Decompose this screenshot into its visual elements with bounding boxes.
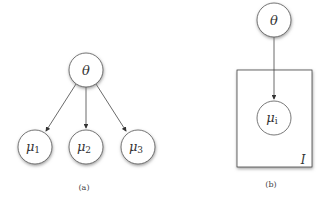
- node-mu3: μ3: [121, 130, 155, 164]
- panel-b: θ μi I (b): [237, 3, 312, 189]
- edge-theta-mu3: [96, 84, 126, 131]
- panel-a: θ μ1 μ2 μ3 (a): [18, 53, 155, 192]
- node-mui: μi: [257, 101, 291, 135]
- edge-theta-mu1: [46, 84, 76, 131]
- node-mu1: μ1: [18, 130, 52, 164]
- caption-b: (b): [265, 180, 276, 189]
- plate-label: I: [300, 153, 306, 167]
- svg-text:θ: θ: [82, 63, 90, 78]
- diagram-canvas: θ μ1 μ2 μ3 (a) θ μi I (b): [0, 0, 325, 201]
- svg-text:θ: θ: [270, 13, 278, 28]
- caption-a: (a): [78, 183, 89, 192]
- node-theta-b: θ: [257, 3, 291, 37]
- node-mu2: μ2: [69, 130, 103, 164]
- node-theta-a: θ: [69, 53, 103, 87]
